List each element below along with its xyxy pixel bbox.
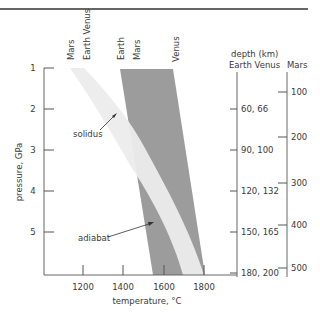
y-tick-label: 2 [30,104,35,114]
depth-title: depth (km) [231,49,278,59]
y-tick-label: 3 [30,145,35,155]
y-tick-label: 1 [30,63,35,73]
x-tick-label: 1200 [72,282,94,292]
depth-axis-earth-venus-label: Earth Venus [229,60,281,70]
x-tick-label: 1400 [112,282,134,292]
mars-depth-label: 200 [291,132,307,142]
pressure-temperature-chart: 1 2 3 4 5 pressure, GPa 1200 1400 1600 1… [0,0,320,317]
mars-depth-label: 100 [291,87,307,97]
depth-tick-label: 180, 200 [241,268,279,278]
y-tick-label: 5 [30,227,35,237]
depth-tick-label: 120, 132 [241,186,279,196]
mars-depth-label: 500 [291,263,307,273]
y-tick-label: 4 [30,186,35,196]
top-label-mars-2: Mars [132,39,142,60]
adiabat-arrow [108,223,152,237]
mars-depth-label: 300 [291,178,307,188]
mars-depth-label: 400 [291,220,307,230]
x-tick-label: 1600 [153,282,175,292]
top-label-earth: Earth [116,37,126,60]
top-label-venus: Venus [171,36,181,62]
x-tick-label: 1800 [193,282,215,292]
depth-tick-label: 150, 165 [241,227,279,237]
solidus-label: solidus [73,129,103,139]
x-axis-title: temperature, °C [112,296,181,306]
depth-tick-label: 60, 66 [241,104,268,114]
top-label-mars: Mars [66,39,76,60]
depth-axis-mars-label: Mars [287,60,308,70]
depth-tick-label: 90, 100 [241,145,273,155]
y-axis-title: pressure, GPa [14,143,24,202]
adiabat-label: adiabat [78,233,111,243]
top-label-earth-venus: Earth Venus [82,8,92,60]
